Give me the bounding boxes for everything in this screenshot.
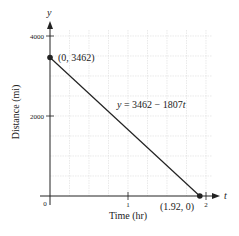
y-tick-2000: 2000: [30, 113, 45, 121]
y-axis-arrow-icon: [47, 21, 53, 29]
t-axis-variable: t: [224, 190, 227, 201]
point-start: [47, 55, 53, 61]
y-axis-variable: y: [46, 7, 52, 18]
equation-label: y = 3462 − 1807t: [116, 99, 186, 110]
y-axis-title: Distance (mi): [10, 85, 22, 140]
point-end: [197, 193, 203, 199]
x-tick-1: 1: [126, 201, 130, 209]
distance-time-chart: y t 4000 2000 0 1 2 Time (hr) Distance (…: [0, 0, 239, 236]
x-tick-2: 2: [204, 201, 208, 209]
point-start-label: (0, 3462): [58, 52, 95, 64]
x-axis-title: Time (hr): [109, 210, 147, 222]
y-tick-4000: 4000: [30, 33, 45, 41]
distance-line: [50, 58, 200, 196]
x-axis-arrow-icon: [212, 193, 220, 199]
point-end-label: (1.92, 0): [160, 201, 194, 213]
origin-label: 0: [43, 200, 47, 208]
